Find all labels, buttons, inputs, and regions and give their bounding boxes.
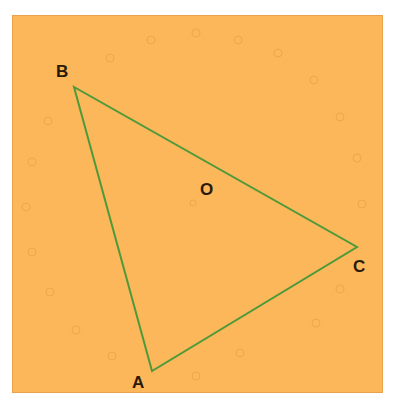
vertex-label-c: C	[353, 258, 365, 275]
point-label-o: O	[200, 181, 213, 198]
triangle-abc	[74, 87, 357, 371]
vertex-label-a: A	[132, 374, 144, 391]
texture-circles	[22, 29, 366, 380]
vertex-label-b: B	[56, 63, 68, 80]
